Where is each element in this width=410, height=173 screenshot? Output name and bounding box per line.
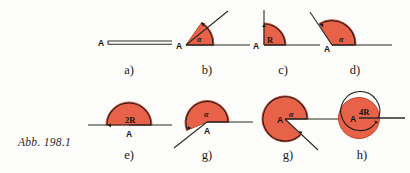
vertex-label-b: A bbox=[176, 41, 182, 51]
angle-label-e: 2R bbox=[125, 115, 136, 125]
vertex-label-f: A bbox=[204, 126, 210, 136]
panel-h: A 4R h) bbox=[339, 92, 406, 162]
angle-label-g: α bbox=[289, 110, 294, 119]
panel-label-g: g) bbox=[283, 148, 293, 162]
panel-e: 2R A e) bbox=[88, 102, 172, 162]
angle-label-d: α bbox=[339, 35, 344, 44]
panel-d: A α d) bbox=[310, 12, 392, 77]
angle-label-h: 4R bbox=[359, 107, 370, 117]
panel-c-sector bbox=[262, 23, 286, 45]
angle-label-f: α bbox=[204, 110, 209, 119]
panel-b: A α b) bbox=[176, 11, 250, 77]
panel-f: α A g) bbox=[174, 101, 253, 162]
vertex-label-a: A bbox=[98, 38, 104, 48]
vertex-label-h: A bbox=[350, 114, 356, 124]
panel-a: A a) bbox=[98, 38, 172, 78]
panel-label-d: d) bbox=[350, 63, 360, 77]
panel-label-c: c) bbox=[278, 63, 288, 77]
vertex-label-g: A bbox=[277, 115, 283, 125]
vertex-label-d: A bbox=[324, 44, 330, 54]
panel-a-rays bbox=[108, 41, 172, 44]
panel-label-h: h) bbox=[357, 148, 367, 162]
angle-label-c: R bbox=[267, 35, 274, 45]
vertex-label-c: A bbox=[253, 41, 259, 51]
figure-caption: Abb. 198.1 bbox=[18, 136, 71, 148]
panel-c: A R c) bbox=[253, 10, 320, 77]
panel-d-sector bbox=[319, 20, 356, 45]
panel-label-a: a) bbox=[124, 63, 134, 77]
panel-g: A α g) bbox=[262, 96, 345, 162]
panel-label-f: g) bbox=[202, 148, 212, 162]
vertex-label-e: A bbox=[126, 129, 132, 139]
figure-container: A a) A α b) A R bbox=[0, 0, 410, 173]
sector-fill-d bbox=[319, 20, 356, 45]
angle-label-b: α bbox=[197, 35, 202, 44]
panel-label-e: e) bbox=[124, 148, 134, 162]
panel-label-b: b) bbox=[202, 63, 212, 77]
